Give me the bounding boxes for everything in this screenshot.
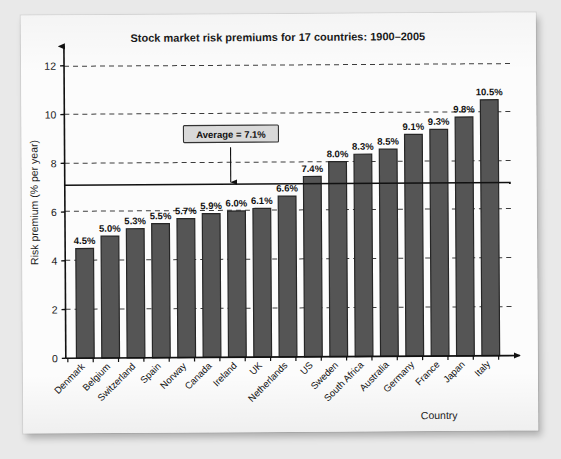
- bar-value-label: 6.1%: [251, 195, 273, 206]
- bar: [480, 100, 499, 356]
- average-callout-label: Average = 7.1%: [196, 129, 266, 140]
- bar: [354, 154, 373, 356]
- bar-value-label: 5.9%: [200, 200, 222, 211]
- bar-value-label: 5.0%: [99, 223, 121, 234]
- y-tick-label: 2: [52, 303, 58, 315]
- bar: [76, 248, 94, 358]
- bar-chart: Average = 7.1% 024681012 4.5%5.0%5.3%5.5…: [21, 12, 539, 433]
- y-axis-title: Risk premium (% per year): [27, 140, 40, 265]
- bar: [152, 224, 171, 358]
- bar: [303, 176, 322, 356]
- bar: [101, 236, 119, 358]
- y-tick-label: 8: [51, 157, 57, 169]
- y-tick-label: 12: [44, 60, 56, 72]
- y-tick-label: 0: [52, 352, 58, 364]
- chart-svg: Average = 7.1% 024681012 4.5%5.0%5.3%5.5…: [21, 12, 539, 433]
- average-callout-box: Average = 7.1%: [183, 125, 278, 143]
- bar: [278, 196, 297, 357]
- bar-value-label: 6.6%: [276, 183, 298, 194]
- bar-value-label: 9.3%: [428, 116, 450, 127]
- chart-title: Stock market risk premiums for 17 countr…: [130, 30, 425, 44]
- bar-value-label: 5.7%: [175, 205, 197, 216]
- y-tick-label: 4: [51, 255, 57, 267]
- bar-value-label: 8.3%: [352, 141, 374, 152]
- bar-value-label: 6.0%: [226, 197, 248, 208]
- bar-value-label: 5.5%: [150, 210, 172, 221]
- bar: [405, 134, 424, 356]
- bar-value-label: 10.5%: [476, 86, 504, 97]
- y-tick-label: 6: [51, 206, 57, 218]
- scanned-page-sheet: S 11.02 12 of 14: [21, 12, 539, 433]
- bar: [455, 117, 474, 356]
- bar-value-label: 8.0%: [327, 148, 349, 159]
- bar-value-label: 8.5%: [377, 136, 399, 147]
- bar-value-label: 7.4%: [301, 163, 323, 174]
- bar-value-label: 9.8%: [453, 103, 475, 114]
- x-axis-title: Country: [421, 409, 459, 421]
- bar: [379, 149, 398, 356]
- bar-value-label: 9.1%: [402, 121, 424, 132]
- bar: [126, 229, 145, 358]
- bar-value-label: 5.3%: [124, 215, 146, 226]
- bar: [177, 219, 196, 358]
- y-tick-label: 10: [45, 108, 57, 120]
- bar: [430, 129, 449, 356]
- bar-value-label: 4.5%: [74, 235, 96, 246]
- bar: [228, 211, 247, 357]
- bar: [202, 214, 221, 358]
- bar: [329, 162, 348, 357]
- bar: [253, 208, 272, 357]
